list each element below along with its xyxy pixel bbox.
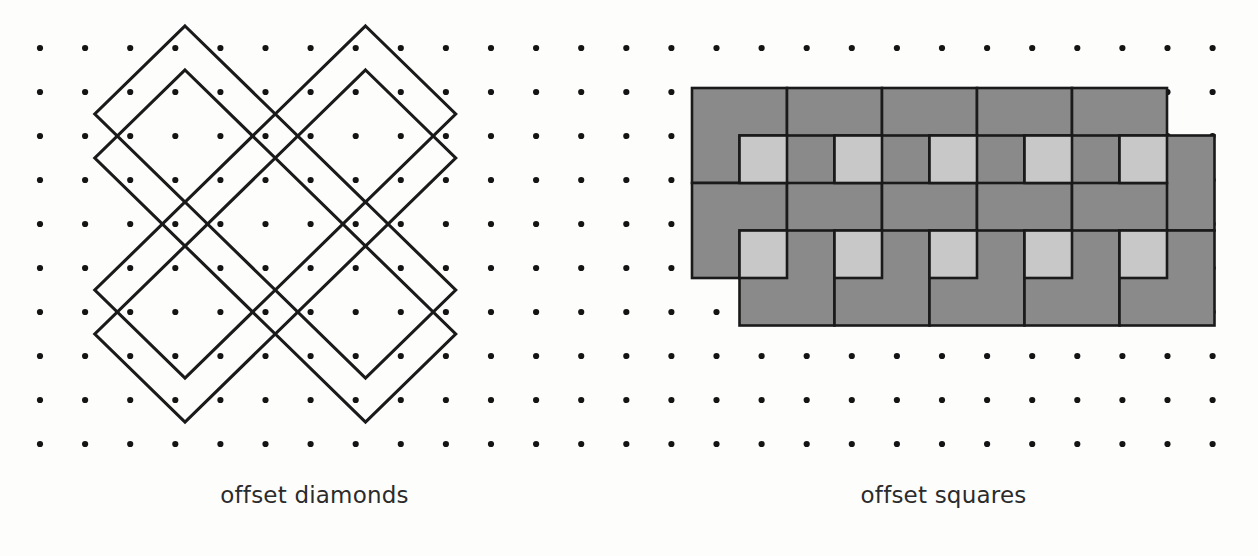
grid-dot bbox=[849, 397, 855, 403]
grid-dot bbox=[262, 265, 268, 271]
grid-dot bbox=[127, 177, 133, 183]
grid-dot bbox=[308, 309, 314, 315]
grid-dot bbox=[578, 45, 584, 51]
diamond-outline bbox=[95, 202, 275, 378]
grid-dot bbox=[443, 45, 449, 51]
square-shapes-group bbox=[692, 88, 1215, 326]
grid-dot bbox=[353, 89, 359, 95]
grid-dot bbox=[443, 133, 449, 139]
grid-dot bbox=[488, 45, 494, 51]
diamond-outline bbox=[275, 246, 455, 422]
offset-diamonds-drawing bbox=[0, 0, 629, 470]
grid-dot bbox=[127, 309, 133, 315]
grid-dot bbox=[533, 309, 539, 315]
grid-dot bbox=[353, 309, 359, 315]
grid-dot bbox=[443, 309, 449, 315]
grid-dot bbox=[127, 353, 133, 359]
grid-dot bbox=[894, 45, 900, 51]
square-overlap-patch bbox=[930, 136, 978, 184]
grid-dot bbox=[668, 309, 674, 315]
square-overlap-patch bbox=[930, 231, 978, 279]
grid-dot bbox=[82, 177, 88, 183]
grid-dot bbox=[984, 353, 990, 359]
grid-dot bbox=[172, 265, 178, 271]
square-overlap-patch bbox=[835, 231, 883, 279]
grid-dot bbox=[939, 397, 945, 403]
grid-dot bbox=[262, 221, 268, 227]
grid-dot bbox=[849, 45, 855, 51]
grid-dot bbox=[398, 353, 404, 359]
grid-dot bbox=[804, 45, 810, 51]
square-overlap-patch bbox=[1120, 231, 1168, 279]
grid-dot bbox=[308, 221, 314, 227]
grid-dot bbox=[82, 265, 88, 271]
grid-dot bbox=[713, 353, 719, 359]
diamond-outline bbox=[95, 70, 275, 246]
square-overlap-patch bbox=[835, 136, 883, 184]
grid-dot bbox=[488, 133, 494, 139]
grid-dot bbox=[37, 177, 43, 183]
grid-dot bbox=[759, 353, 765, 359]
grid-dot bbox=[353, 45, 359, 51]
grid-dot bbox=[37, 265, 43, 271]
grid-dot bbox=[668, 441, 674, 447]
grid-dot bbox=[668, 133, 674, 139]
grid-dot bbox=[217, 177, 223, 183]
grid-dot bbox=[984, 441, 990, 447]
grid-dot bbox=[37, 45, 43, 51]
grid-dot bbox=[172, 441, 178, 447]
grid-dot bbox=[37, 133, 43, 139]
grid-dot bbox=[308, 353, 314, 359]
grid-dot bbox=[443, 397, 449, 403]
grid-dot bbox=[668, 89, 674, 95]
grid-dot bbox=[262, 133, 268, 139]
square-overlap-patch bbox=[740, 136, 788, 184]
grid-dot bbox=[668, 353, 674, 359]
grid-dot bbox=[398, 441, 404, 447]
grid-dot bbox=[984, 397, 990, 403]
grid-dot bbox=[217, 133, 223, 139]
grid-dot bbox=[262, 441, 268, 447]
grid-dot bbox=[713, 441, 719, 447]
panel-offset-diamonds bbox=[0, 0, 629, 556]
grid-dot bbox=[398, 309, 404, 315]
grid-dot bbox=[217, 397, 223, 403]
grid-dot bbox=[37, 441, 43, 447]
grid-dot bbox=[217, 221, 223, 227]
grid-dot bbox=[217, 45, 223, 51]
grid-dot bbox=[172, 397, 178, 403]
grid-dot bbox=[488, 265, 494, 271]
grid-dot bbox=[443, 441, 449, 447]
grid-dot bbox=[1074, 441, 1080, 447]
grid-dot bbox=[262, 89, 268, 95]
grid-dot bbox=[398, 133, 404, 139]
grid-dot bbox=[759, 397, 765, 403]
grid-dot bbox=[1210, 353, 1216, 359]
grid-dot bbox=[398, 45, 404, 51]
grid-dot bbox=[533, 397, 539, 403]
grid-dot bbox=[217, 309, 223, 315]
grid-dot bbox=[578, 309, 584, 315]
grid-dot bbox=[1119, 441, 1125, 447]
grid-dot bbox=[82, 89, 88, 95]
grid-dot bbox=[1029, 45, 1035, 51]
grid-dot bbox=[578, 265, 584, 271]
grid-dot bbox=[353, 221, 359, 227]
grid-dot bbox=[1164, 441, 1170, 447]
grid-dot bbox=[984, 45, 990, 51]
grid-dot bbox=[398, 221, 404, 227]
grid-dot bbox=[353, 133, 359, 139]
grid-dot bbox=[533, 45, 539, 51]
grid-dot bbox=[1164, 397, 1170, 403]
grid-dot bbox=[262, 397, 268, 403]
grid-dot bbox=[82, 353, 88, 359]
grid-dot bbox=[533, 221, 539, 227]
offset-squares-drawing bbox=[629, 0, 1258, 470]
grid-dot bbox=[172, 309, 178, 315]
grid-dot bbox=[849, 353, 855, 359]
caption-offset-squares: offset squares bbox=[629, 482, 1258, 508]
grid-dot bbox=[488, 441, 494, 447]
grid-dot bbox=[668, 265, 674, 271]
square-overlap-patch bbox=[1025, 231, 1073, 279]
grid-dot bbox=[82, 45, 88, 51]
